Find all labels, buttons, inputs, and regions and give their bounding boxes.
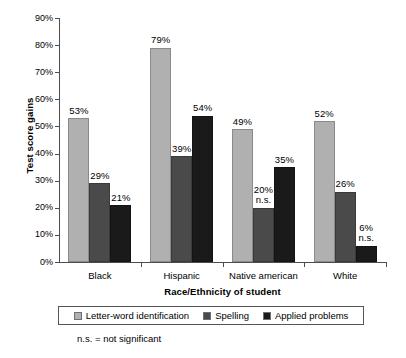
bar-value-label: 79%: [151, 35, 170, 46]
bar-value-label: 26%: [336, 179, 355, 190]
y-axis-tick-mark: [55, 235, 59, 236]
y-axis-tick-mark: [55, 99, 59, 100]
y-axis-tick-mark: [55, 262, 59, 263]
plot-area: 0%10%20%30%40%50%60%70%80%90%53%29%21%Bl…: [59, 18, 386, 262]
bar-value-label: 21%: [111, 193, 130, 204]
y-axis-tick-mark: [55, 208, 59, 209]
y-axis-tick-mark: [55, 45, 59, 46]
y-axis-tick-label: 60%: [9, 95, 53, 104]
x-axis-tick-label: Native american: [229, 270, 298, 281]
bar-chart: Test score gains 0%10%20%30%40%50%60%70%…: [0, 0, 406, 358]
bar-value-label: 49%: [233, 117, 252, 128]
bar-value-label: 54%: [193, 103, 212, 114]
y-axis-tick-label: 0%: [9, 258, 53, 267]
bar: [89, 183, 110, 262]
bar-value-label: 6%n.s.: [358, 223, 373, 244]
y-axis-tick-mark: [55, 18, 59, 19]
bar: [232, 129, 253, 262]
bar: [110, 205, 131, 262]
legend-label: Applied problems: [275, 310, 348, 321]
y-axis-tick-label: 90%: [9, 14, 53, 23]
bar: [192, 116, 213, 262]
y-axis-tick-mark: [55, 72, 59, 73]
bar: [150, 48, 171, 262]
legend-entry: Spelling: [203, 310, 249, 321]
bar: [314, 121, 335, 262]
y-axis-line: [59, 18, 60, 262]
bar-value-label: 35%: [275, 155, 294, 166]
bar: [253, 208, 274, 262]
y-axis-tick-mark: [55, 126, 59, 127]
x-axis-tick-mark: [223, 262, 224, 267]
y-axis-tick-label: 50%: [9, 122, 53, 131]
y-axis-tick-label: 30%: [9, 176, 53, 185]
legend-label: Spelling: [215, 310, 249, 321]
y-axis-tick-label: 10%: [9, 230, 53, 239]
bar-value-label: 29%: [90, 171, 109, 182]
legend-entry: Applied problems: [263, 310, 348, 321]
x-axis-title: Race/Ethnicity of student: [59, 286, 386, 297]
chart-legend: Letter-word identificationSpellingApplie…: [58, 306, 364, 325]
legend-swatch: [263, 312, 271, 320]
bar-value-label: 53%: [69, 106, 88, 117]
bar: [335, 192, 356, 262]
x-axis-tick-mark: [141, 262, 142, 267]
y-axis-tick-label: 40%: [9, 149, 53, 158]
bar-value-label: 52%: [315, 109, 334, 120]
chart-footnote: n.s. = not significant: [77, 333, 161, 344]
y-axis-tick-mark: [55, 154, 59, 155]
x-axis-tick-mark: [304, 262, 305, 267]
bar-significance-note: n.s.: [254, 195, 273, 206]
bar: [356, 246, 377, 262]
y-axis-tick-mark: [55, 181, 59, 182]
y-axis-tick-label: 70%: [9, 68, 53, 77]
x-axis-tick-label: Hispanic: [163, 270, 199, 281]
bar-value-label: 20%n.s.: [254, 185, 273, 206]
bar: [274, 167, 295, 262]
bar: [171, 156, 192, 262]
bar-significance-note: n.s.: [358, 233, 373, 244]
x-axis-tick-label: White: [333, 270, 357, 281]
y-axis-tick-label: 20%: [9, 203, 53, 212]
x-axis-tick-label: Black: [88, 270, 111, 281]
y-axis-tick-label: 80%: [9, 41, 53, 50]
bar-value-label: 39%: [172, 144, 191, 155]
legend-swatch: [203, 312, 211, 320]
legend-swatch: [74, 312, 82, 320]
x-axis-tick-mark: [386, 262, 387, 267]
bar: [68, 118, 89, 262]
legend-label: Letter-word identification: [86, 310, 190, 321]
legend-entry: Letter-word identification: [74, 310, 190, 321]
